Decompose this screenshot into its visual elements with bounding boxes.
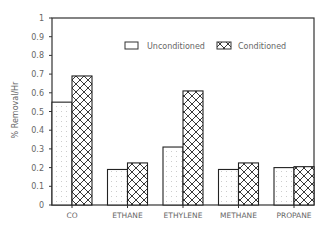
x-tick-label: ETHANE xyxy=(112,211,143,220)
bar-unconditioned-methane xyxy=(219,169,239,205)
bars xyxy=(52,76,314,205)
x-tick-label: CO xyxy=(66,211,77,220)
y-axis-ticks: 00.10.20.30.40.50.60.70.80.91 xyxy=(31,14,52,210)
bar-conditioned-propane xyxy=(294,167,314,205)
bar-unconditioned-co xyxy=(52,102,72,205)
bar-conditioned-methane xyxy=(239,163,259,205)
bar-unconditioned-propane xyxy=(274,168,294,205)
y-tick-label: 0.1 xyxy=(31,182,44,191)
x-axis-labels: COETHANEETHYLENEMETHANEPROPANE xyxy=(66,205,311,220)
y-tick-label: 0.3 xyxy=(31,145,44,154)
y-axis-label: % Removal/Hr xyxy=(11,81,20,139)
bar-unconditioned-ethane xyxy=(108,169,128,205)
y-tick-label: 0.6 xyxy=(31,89,44,98)
y-tick-label: 0.2 xyxy=(31,164,44,173)
y-tick-label: 0.7 xyxy=(31,70,44,79)
bar-conditioned-ethane xyxy=(128,163,148,205)
y-tick-label: 0 xyxy=(39,201,44,210)
bar-chart: 00.10.20.30.40.50.60.70.80.91 COETHANEET… xyxy=(0,0,329,230)
x-tick-label: PROPANE xyxy=(276,211,311,220)
y-tick-label: 0.4 xyxy=(31,126,44,135)
legend-label-conditioned: Conditioned xyxy=(238,42,286,51)
x-tick-label: METHANE xyxy=(220,211,257,220)
bar-conditioned-ethylene xyxy=(183,91,203,205)
legend: Unconditioned Conditioned xyxy=(125,42,286,51)
legend-label-unconditioned: Unconditioned xyxy=(147,42,205,51)
bar-conditioned-co xyxy=(72,76,92,205)
y-tick-label: 0.8 xyxy=(31,51,44,60)
x-tick-label: ETHYLENE xyxy=(164,211,203,220)
legend-swatch-conditioned xyxy=(217,42,231,49)
y-tick-label: 0.5 xyxy=(31,108,44,117)
y-tick-label: 1 xyxy=(39,14,44,23)
bar-unconditioned-ethylene xyxy=(163,147,183,205)
legend-swatch-unconditioned xyxy=(125,42,138,49)
y-tick-label: 0.9 xyxy=(31,33,44,42)
